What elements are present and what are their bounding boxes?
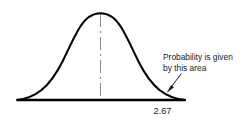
normal-curve-figure: Probability is given by this area 2.67 [0,0,249,126]
axis-tick-label: 2.67 [154,106,172,116]
annotation-line-1: Probability is given [163,52,233,62]
annotation-arrowhead [167,85,173,92]
annotation-line-2: by this area [163,63,207,73]
